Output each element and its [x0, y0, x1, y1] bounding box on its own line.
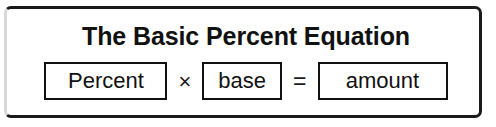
figure-outer-frame: The Basic Percent Equation Percent × bas… [4, 6, 482, 118]
term-label-percent: Percent [68, 70, 144, 92]
term-label-base: base [218, 70, 266, 92]
term-label-amount: amount [346, 70, 419, 92]
percent-equation: Percent × base = amount [7, 59, 485, 103]
equals-sign-icon: = [282, 70, 317, 93]
term-box-amount: amount [318, 62, 448, 100]
term-box-base: base [202, 62, 282, 100]
multiplication-sign-icon: × [167, 70, 202, 93]
figure-title: The Basic Percent Equation [7, 22, 485, 51]
term-box-percent: Percent [44, 62, 167, 100]
figure-screenshot: The Basic Percent Equation Percent × bas… [0, 0, 496, 127]
